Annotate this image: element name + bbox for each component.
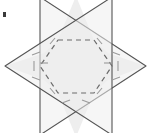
geometry-figure-canvas xyxy=(0,0,152,133)
hexagram-star-diagram xyxy=(0,0,152,133)
